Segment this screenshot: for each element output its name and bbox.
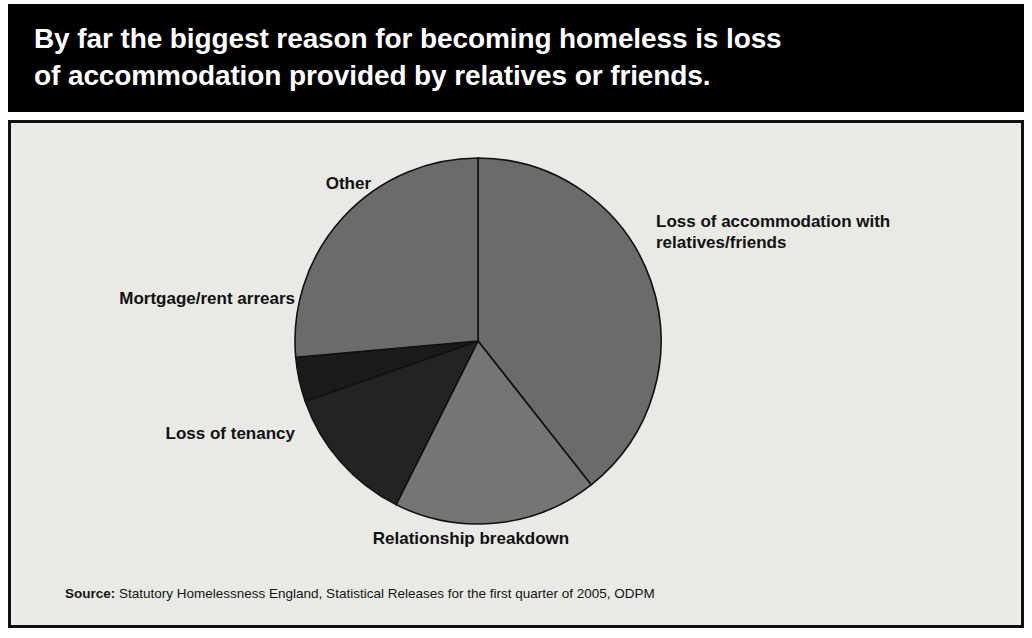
source-note: Source: Statutory Homelessness England, … xyxy=(65,586,655,601)
pie-slices xyxy=(295,158,661,524)
source-label: Source: xyxy=(65,586,115,601)
source-text: Statutory Homelessness England, Statisti… xyxy=(115,586,655,601)
chart-figure: By far the biggest reason for becoming h… xyxy=(0,0,1032,638)
pie-chart xyxy=(11,123,1021,625)
title-banner: By far the biggest reason for becoming h… xyxy=(8,4,1024,112)
chart-area: Loss of accommodation with relatives/fri… xyxy=(11,123,1021,625)
page-title: By far the biggest reason for becoming h… xyxy=(8,21,808,95)
chart-panel: Loss of accommodation with relatives/fri… xyxy=(8,120,1024,628)
slice-label-relationship-breakdown: Relationship breakdown xyxy=(306,528,636,549)
slice-label-mortgage-rent-arrears: Mortgage/rent arrears xyxy=(67,288,295,309)
slice-label-other: Other xyxy=(291,173,371,194)
slice-label-loss-of-tenancy: Loss of tenancy xyxy=(91,423,295,444)
slice-label-loss-of-accommodation: Loss of accommodation with relatives/fri… xyxy=(656,211,946,254)
